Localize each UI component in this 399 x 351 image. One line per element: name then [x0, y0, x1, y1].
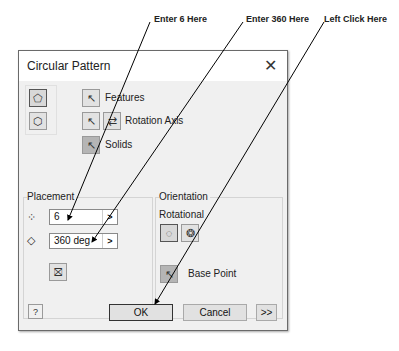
pattern-solids-button[interactable]: ⬡	[29, 112, 47, 130]
fixed-orientation-icon: ❂	[186, 227, 195, 240]
callout-enter-360: Enter 360 Here	[246, 14, 309, 24]
occurrence-angle-input[interactable]: 360 deg >	[49, 233, 118, 249]
fixed-button[interactable]: ❂	[181, 224, 199, 242]
base-point-label: Base Point	[188, 268, 236, 279]
rotational-label: Rotational	[159, 209, 204, 220]
occurrence-angle-value: 360 deg	[54, 235, 90, 246]
angle-icon: ◇	[27, 234, 35, 247]
pattern-solid-icon: ⬡	[33, 115, 43, 128]
title-bar: Circular Pattern ✕	[19, 51, 287, 81]
midplane-button[interactable]: ⛝	[49, 263, 67, 281]
cursor-arrow-icon: ↖	[165, 268, 174, 281]
occurrence-count-value: 6	[54, 211, 60, 222]
callout-left-click: Left Click Here	[324, 14, 387, 24]
pattern-feature-icon: ⬠	[33, 92, 43, 105]
angle-menu-arrow[interactable]: >	[102, 234, 117, 248]
rotation-axis-label: Rotation Axis	[125, 115, 183, 126]
cursor-arrow-icon: ↖	[87, 92, 96, 105]
flip-direction-icon: ⇄	[108, 115, 117, 128]
orientation-title: Orientation	[159, 191, 210, 202]
placement-title: Placement	[27, 191, 76, 202]
help-icon: ?	[33, 307, 38, 317]
flip-axis-button[interactable]: ⇄	[103, 112, 121, 130]
help-button[interactable]: ?	[28, 304, 43, 319]
pattern-features-button[interactable]: ⬠	[29, 89, 47, 107]
dialog-title: Circular Pattern	[27, 59, 110, 73]
rotational-icon: ◌	[166, 227, 173, 239]
solids-label: Solids	[105, 139, 132, 150]
features-label: Features	[105, 92, 144, 103]
callout-enter-6: Enter 6 Here	[154, 14, 207, 24]
midplane-icon: ⛝	[54, 266, 62, 279]
count-menu-arrow[interactable]: >	[102, 210, 117, 224]
cursor-arrow-icon: ↖	[87, 139, 96, 152]
solids-select-button[interactable]: ↖	[82, 136, 100, 154]
base-point-button[interactable]: ↖	[160, 265, 178, 283]
cancel-button[interactable]: Cancel	[183, 304, 247, 321]
cursor-arrow-icon: ↖	[87, 115, 96, 128]
close-icon[interactable]: ✕	[264, 56, 277, 75]
occurrence-count-icon: ⁘	[27, 211, 36, 224]
rotational-button[interactable]: ◌	[160, 224, 178, 242]
ok-button[interactable]: OK	[109, 304, 173, 321]
more-options-button[interactable]: >>	[256, 304, 277, 321]
rotation-axis-select-button[interactable]: ↖	[82, 112, 100, 130]
occurrence-count-input[interactable]: 6 >	[49, 209, 118, 225]
features-select-button[interactable]: ↖	[82, 89, 100, 107]
circular-pattern-dialog: Circular Pattern ✕ ⬠ ⬡ ↖ Features ↖ ⇄ Ro…	[18, 50, 288, 331]
